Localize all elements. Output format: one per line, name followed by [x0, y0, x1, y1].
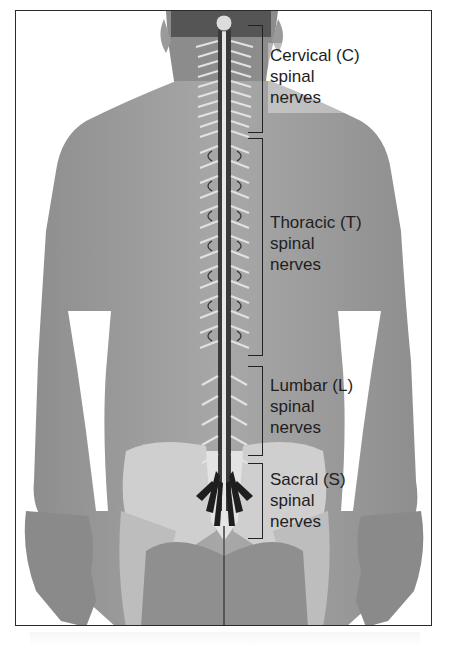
bottom-fade	[30, 632, 420, 646]
label-cervical-title: Cervical (C)	[270, 45, 360, 66]
label-sacral: Sacral (S) spinal nerves	[270, 469, 346, 532]
label-sacral-line3: nerves	[270, 511, 346, 532]
hand-right	[356, 511, 423, 626]
label-thoracic-line3: nerves	[270, 254, 362, 275]
label-thoracic-line2: spinal	[270, 233, 362, 254]
bracket-cervical	[248, 25, 263, 133]
label-lumbar-line3: nerves	[270, 417, 353, 438]
spine-anatomy-illustration	[16, 11, 432, 626]
label-sacral-line2: spinal	[270, 490, 346, 511]
label-lumbar-line2: spinal	[270, 396, 353, 417]
label-lumbar-title: Lumbar (L)	[270, 375, 353, 396]
label-thoracic-title: Thoracic (T)	[270, 212, 362, 233]
label-lumbar: Lumbar (L) spinal nerves	[270, 375, 353, 438]
label-thoracic: Thoracic (T) spinal nerves	[270, 212, 362, 275]
brainstem	[216, 15, 232, 31]
bracket-thoracic	[248, 138, 263, 356]
spinal-cord-highlight	[222, 26, 226, 526]
bracket-lumbar	[248, 366, 263, 456]
label-sacral-title: Sacral (S)	[270, 469, 346, 490]
label-cervical-line2: spinal	[270, 66, 360, 87]
label-cervical-line3: nerves	[270, 87, 360, 108]
bracket-sacral	[248, 463, 263, 539]
figure-frame	[15, 10, 432, 626]
label-cervical: Cervical (C) spinal nerves	[270, 45, 360, 108]
hand-left	[25, 511, 96, 626]
